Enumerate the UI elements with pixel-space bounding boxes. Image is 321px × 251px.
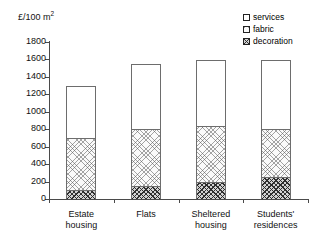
bar-segment-services[interactable] bbox=[131, 64, 161, 129]
y-axis-title-superscript: 2 bbox=[51, 10, 55, 17]
bar-stack[interactable] bbox=[131, 64, 161, 199]
x-axis-tick-mark bbox=[308, 199, 309, 203]
x-axis-category-label-line: housing bbox=[44, 220, 118, 231]
legend-label-services: services bbox=[253, 12, 284, 22]
bar-stack[interactable] bbox=[66, 86, 96, 199]
legend-item-fabric[interactable]: fabric bbox=[243, 24, 293, 34]
y-axis-title: £/100 m2 bbox=[18, 12, 54, 23]
bar-segment-services[interactable] bbox=[261, 60, 291, 129]
legend-swatch-services-icon bbox=[243, 14, 250, 21]
x-axis-category-label: Shelteredhousing bbox=[174, 209, 248, 231]
bar-segment-decoration[interactable] bbox=[131, 186, 161, 199]
x-axis-category-label-line: Flats bbox=[109, 209, 183, 220]
y-axis-tick-label: 600 bbox=[31, 141, 46, 152]
y-axis-tick-label: 200 bbox=[31, 176, 46, 187]
y-axis-tick-label: 1800 bbox=[26, 36, 46, 47]
y-axis-tick-label: 1600 bbox=[26, 53, 46, 64]
bar-segment-fabric[interactable] bbox=[196, 126, 226, 182]
x-axis-category-label-line: residences bbox=[239, 220, 313, 231]
bar-segment-fabric[interactable] bbox=[261, 129, 291, 177]
x-axis-category-label: Students'residences bbox=[239, 209, 313, 231]
x-axis-tick-mark bbox=[179, 199, 180, 203]
chart-container: £/100 m2 services fabric decoration 0200… bbox=[0, 0, 321, 251]
y-axis-title-text: £/100 m bbox=[18, 12, 51, 22]
bar-segment-decoration[interactable] bbox=[261, 177, 291, 199]
bar-segment-fabric[interactable] bbox=[66, 138, 96, 190]
plot-area: 020040060080010001200140016001800 bbox=[49, 42, 308, 199]
y-axis-tick-label: 0 bbox=[41, 193, 46, 204]
bar-segment-services[interactable] bbox=[66, 86, 96, 138]
y-axis-tick-label: 1200 bbox=[26, 88, 46, 99]
legend-item-services[interactable]: services bbox=[243, 12, 293, 22]
x-axis-category-label: Estatehousing bbox=[44, 209, 118, 231]
y-axis-tick-label: 1400 bbox=[26, 71, 46, 82]
bar-stack[interactable] bbox=[196, 60, 226, 199]
bar-stack[interactable] bbox=[261, 60, 291, 199]
legend-label-fabric: fabric bbox=[253, 24, 274, 34]
x-axis-category-label-line: Sheltered bbox=[174, 209, 248, 220]
x-axis-category-label-line: housing bbox=[174, 220, 248, 231]
x-axis-tick-mark bbox=[114, 199, 115, 203]
x-axis-tick-mark bbox=[49, 199, 50, 203]
x-axis-category-label-line: Students' bbox=[239, 209, 313, 220]
x-axis-category-label-line: Estate bbox=[44, 209, 118, 220]
x-axis-category-label: Flats bbox=[109, 209, 183, 220]
bar-segment-decoration[interactable] bbox=[196, 182, 226, 199]
y-axis-tick-label: 800 bbox=[31, 123, 46, 134]
legend-swatch-fabric-icon bbox=[243, 26, 250, 33]
y-axis-line bbox=[49, 41, 50, 200]
y-axis-tick-label: 400 bbox=[31, 158, 46, 169]
y-axis-tick-label: 1000 bbox=[26, 106, 46, 117]
legend: services fabric decoration bbox=[243, 12, 293, 46]
bar-segment-fabric[interactable] bbox=[131, 129, 161, 186]
bar-segment-services[interactable] bbox=[196, 60, 226, 125]
bar-segment-decoration[interactable] bbox=[66, 190, 96, 199]
x-axis-tick-mark bbox=[243, 199, 244, 203]
